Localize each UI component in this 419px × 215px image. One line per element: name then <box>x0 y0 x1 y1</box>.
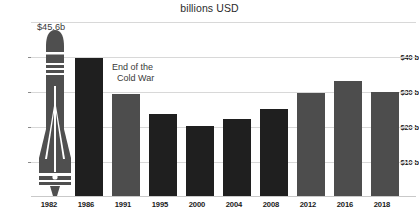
bar-1995[interactable] <box>149 114 177 196</box>
bar-2004[interactable] <box>223 119 251 196</box>
x-axis-label-1995: 1995 <box>142 200 178 209</box>
peak-value-label: $45.6b <box>37 22 65 32</box>
gridline-top <box>31 22 416 23</box>
x-axis-label-2000: 2000 <box>179 200 215 209</box>
x-axis-label-2012: 2012 <box>290 200 326 209</box>
x-axis-label-2018: 2018 <box>364 200 400 209</box>
bar-2000[interactable] <box>186 126 214 196</box>
chart-container: billions USD $40 b $30 b $20 b $10 b <box>0 0 419 215</box>
bar-2018[interactable] <box>371 92 399 196</box>
cold-war-annotation-line2: Cold War <box>112 73 154 84</box>
bar-1986[interactable] <box>75 58 103 196</box>
cold-war-annotation-line1: End of the <box>112 62 153 72</box>
bar-2016[interactable] <box>334 81 362 196</box>
x-axis-label-1982: 1982 <box>31 200 67 209</box>
x-axis-label-2008: 2008 <box>253 200 289 209</box>
rocket-pictogram-1982 <box>37 30 73 200</box>
x-axis-label-2016: 2016 <box>327 200 363 209</box>
x-axis-label-1986: 1986 <box>68 200 104 209</box>
cold-war-annotation: End of the Cold War <box>112 62 154 84</box>
bar-2008[interactable] <box>260 109 288 196</box>
plot-area <box>31 22 416 196</box>
bar-2012[interactable] <box>297 93 325 196</box>
x-axis-label-1991: 1991 <box>105 200 141 209</box>
bar-1991[interactable] <box>112 94 140 196</box>
axis-baseline <box>31 196 416 197</box>
chart-title: billions USD <box>0 2 419 14</box>
x-axis-label-2004: 2004 <box>216 200 252 209</box>
